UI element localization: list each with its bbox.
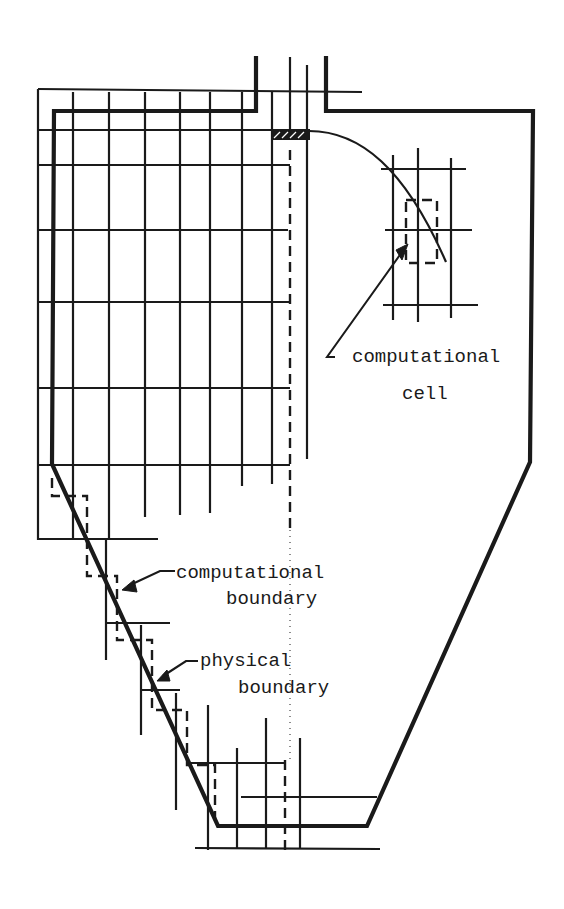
label-physical-boundary-line1: physical [200, 650, 291, 672]
diagram-canvas [0, 0, 564, 909]
physical-boundary-wall [52, 56, 533, 826]
label-computational-boundary-line1: computational [176, 562, 324, 584]
label-physical-boundary-line2: boundary [238, 677, 329, 699]
mesh-grid [38, 57, 380, 850]
cell-detail-grid [381, 148, 478, 322]
hatched-inflow-cell [272, 130, 309, 139]
free-surface-curve [309, 131, 446, 262]
inlet-partial-cells [285, 150, 290, 850]
label-computational-boundary-line2: boundary [226, 588, 317, 610]
label-computational-cell-line1: computational [352, 346, 500, 368]
leader-arrows [122, 244, 408, 681]
label-computational-cell-line2: cell [402, 383, 448, 405]
